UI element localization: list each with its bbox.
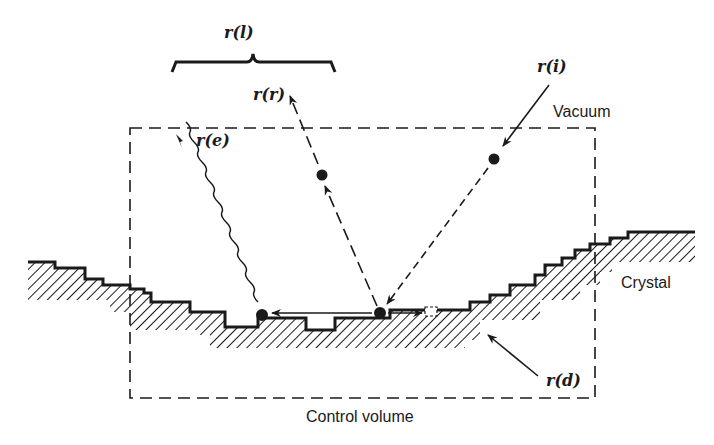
adatom-center bbox=[374, 307, 386, 319]
incident-ray-arrow bbox=[503, 85, 549, 146]
label-control-volume: Control volume bbox=[306, 408, 414, 425]
diagram-canvas: r(l) r(i) r(r) r(e) r(d) Vacuum Crystal … bbox=[0, 0, 714, 445]
bracket-r-l bbox=[172, 54, 335, 72]
label-r-i: r(i) bbox=[537, 57, 567, 76]
label-r-d: r(d) bbox=[546, 371, 581, 390]
incident-dashed-path bbox=[387, 168, 488, 304]
vacant-site bbox=[425, 307, 437, 316]
label-crystal: Crystal bbox=[621, 274, 671, 291]
crystal-surface-diagram: r(l) r(i) r(r) r(e) r(d) Vacuum Crystal … bbox=[0, 0, 714, 445]
label-r-l: r(l) bbox=[224, 23, 254, 42]
incident-particle bbox=[489, 154, 500, 165]
control-volume-box bbox=[130, 128, 595, 398]
evaporation-arrowhead bbox=[176, 134, 183, 148]
label-vacuum: Vacuum bbox=[553, 103, 611, 120]
label-r-r: r(r) bbox=[253, 85, 285, 104]
label-r-e: r(e) bbox=[196, 131, 230, 150]
diffusion-into-crystal-arrow bbox=[488, 335, 538, 376]
reflected-ray-arrow bbox=[290, 96, 318, 164]
adatom-left bbox=[256, 309, 268, 321]
reflected-particle bbox=[317, 170, 328, 181]
reflected-dashed-path bbox=[325, 186, 377, 306]
